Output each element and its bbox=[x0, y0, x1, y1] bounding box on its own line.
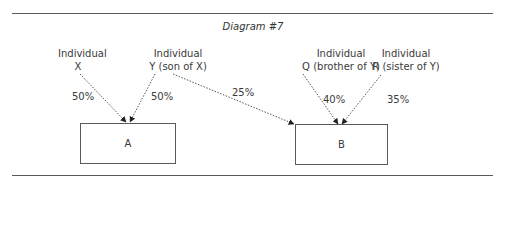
edge-label-y-b: 25% bbox=[232, 87, 254, 98]
edge-label-q-b: 40% bbox=[323, 94, 345, 105]
bottom-rule bbox=[12, 175, 493, 176]
target-a-label: A bbox=[125, 138, 132, 149]
target-b-label: B bbox=[338, 139, 345, 150]
edge-label-y-a: 50% bbox=[151, 91, 173, 102]
edge-r-b bbox=[342, 75, 381, 124]
edge-label-x-a: 50% bbox=[72, 91, 94, 102]
edge-y-b bbox=[173, 74, 294, 124]
edge-label-r-b: 35% bbox=[387, 94, 409, 105]
target-box-b: B bbox=[295, 124, 388, 165]
target-box-a: A bbox=[80, 123, 176, 164]
